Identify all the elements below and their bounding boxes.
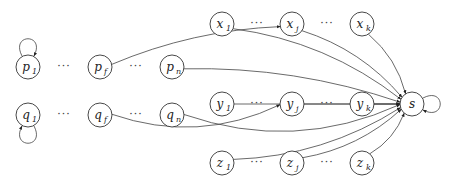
ellipsis-dots: ··· (250, 17, 264, 30)
node-qf: qf (88, 103, 112, 127)
node-q1: q1 (16, 103, 40, 127)
self-loops-layer (20, 39, 441, 144)
node-label: x (357, 17, 364, 31)
node-label: p (94, 60, 102, 74)
node-label: q (166, 108, 174, 122)
node-zj: zj (280, 151, 304, 175)
node-label-subscript: 1 (226, 104, 231, 113)
node-label: z (286, 156, 294, 170)
node-label: p (166, 60, 174, 74)
ellipsis-dots: ··· (57, 60, 71, 73)
node-label-subscript: k (366, 104, 371, 113)
node-yk: yk (350, 92, 374, 116)
node-label: x (287, 17, 294, 31)
edge-z1-to-s (234, 108, 401, 160)
node-y1: y1 (210, 92, 234, 116)
node-p1: p1 (16, 55, 40, 79)
node-label-subscript: k (366, 24, 371, 33)
node-label: q (94, 108, 102, 122)
node-label: y (216, 97, 224, 111)
ellipsis-dots: ··· (320, 156, 334, 169)
ellipsis-dots: ··· (129, 108, 143, 121)
node-label-subscript: 1 (226, 24, 231, 33)
node-z1: z1 (210, 151, 234, 175)
node-pf: pf (88, 55, 112, 79)
node-label-subscript: k (366, 163, 371, 172)
ellipsis-dots: ··· (320, 17, 334, 30)
node-label-subscript: n (176, 115, 181, 124)
ellipsis-dots: ··· (129, 60, 143, 73)
nodes-layer: p1pfpnq1qfqnx1xjxky1yjykz1zjzks (16, 12, 424, 175)
node-label-subscript: 1 (32, 115, 37, 124)
edge-xk-to-s (368, 34, 405, 94)
node-label-subscript: 1 (226, 163, 231, 172)
node-label: p (22, 60, 30, 74)
node-label-subscript: n (176, 67, 181, 76)
self-loop-q1 (20, 126, 37, 143)
node-pn: pn (160, 55, 184, 79)
edge-zk-to-s (370, 113, 404, 154)
node-label: y (286, 97, 294, 111)
node-xk: xk (350, 12, 374, 36)
node-x1: x1 (210, 12, 234, 36)
self-loop-p1 (20, 39, 37, 56)
node-qn: qn (160, 103, 184, 127)
node-label: z (216, 156, 224, 170)
node-yj: yj (280, 92, 304, 116)
node-xj: xj (280, 12, 304, 36)
node-s: s (400, 92, 424, 116)
ellipsis-dots: ··· (57, 108, 71, 121)
node-zk: zk (350, 151, 374, 175)
ellipsis-dots: ··· (250, 97, 264, 110)
self-loop-s (423, 96, 440, 113)
node-label: s (409, 97, 415, 111)
ellipsis-dots: ··· (250, 156, 264, 169)
node-label: q (22, 108, 30, 122)
node-label: z (356, 156, 364, 170)
node-label: x (217, 17, 224, 31)
edge-xj-to-s (302, 31, 402, 98)
node-label: y (356, 97, 364, 111)
ellipsis-dots: ··· (320, 97, 334, 110)
node-label-subscript: 1 (32, 67, 37, 76)
edge-x1-to-s (233, 29, 401, 100)
state-graph-diagram: ······························ p1pfpnq1q… (0, 0, 455, 186)
